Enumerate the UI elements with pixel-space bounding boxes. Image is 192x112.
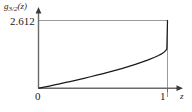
x-tick-label-zero: 0 [35,91,41,102]
y-axis-label: g3/2(z) [4,2,27,13]
y-tick-label-2612: 2.612 [10,16,35,27]
data-curve [39,21,168,89]
x-axis-label: z [180,92,184,101]
figure-container: g3/2(z) 2.612 0 1 z [0,0,192,112]
y-axis-arrowhead [36,7,42,14]
y-axis-label-argument: (z) [17,1,27,11]
x-tick-label-one: 1 [160,91,166,102]
